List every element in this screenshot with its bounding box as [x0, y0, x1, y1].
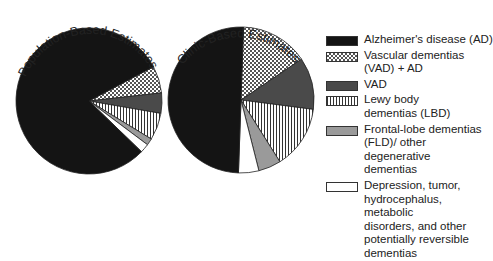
legend-item-ad: Alzheimer's disease (AD)	[326, 33, 493, 47]
solid-black-swatch-icon	[326, 36, 358, 46]
legend-item-lbd: Lewy body dementias (LBD)	[326, 93, 493, 120]
crosshatch-swatch-icon	[326, 52, 358, 62]
legend-item-vad: VAD	[326, 78, 493, 92]
dark-gray-swatch-icon	[326, 81, 358, 91]
legend-item-fld: Frontal-lobe dementias (FLD)/ other dege…	[326, 123, 493, 177]
legend-label: VAD	[364, 78, 387, 92]
legend-label: Lewy body dementias (LBD)	[364, 93, 450, 120]
legend: Alzheimer's disease (AD) Vascular dement…	[326, 33, 493, 261]
legend-label: Depression, tumor, hydrocephalus, metabo…	[364, 179, 493, 261]
white-swatch-icon	[326, 182, 358, 192]
medium-gray-swatch-icon	[326, 126, 358, 136]
legend-item-other: Depression, tumor, hydrocephalus, metabo…	[326, 179, 493, 261]
legend-item-vad-ad: Vascular dementias (VAD) + AD	[326, 49, 493, 76]
legend-label: Alzheimer's disease (AD)	[364, 33, 493, 47]
legend-label: Frontal-lobe dementias (FLD)/ other dege…	[364, 123, 493, 177]
vertical-stripes-swatch-icon	[326, 96, 358, 106]
legend-label: Vascular dementias (VAD) + AD	[364, 49, 464, 76]
